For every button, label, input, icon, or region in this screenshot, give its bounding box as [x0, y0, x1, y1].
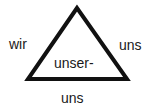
triangle-diagram: wir uns unser- uns: [0, 0, 150, 109]
label-right: uns: [119, 38, 142, 52]
label-center: unser-: [54, 56, 94, 70]
label-left: wir: [9, 37, 27, 51]
label-bottom: uns: [61, 91, 84, 105]
